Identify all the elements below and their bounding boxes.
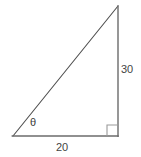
vertical-leg-label: 30 xyxy=(121,64,133,75)
triangle-drawing xyxy=(0,0,141,157)
angle-theta-label: θ xyxy=(30,117,36,128)
right-angle-icon xyxy=(107,125,118,136)
horizontal-leg-label: 20 xyxy=(56,142,68,153)
hypotenuse-line xyxy=(13,6,118,136)
triangle-figure: 30 20 θ xyxy=(0,0,141,157)
